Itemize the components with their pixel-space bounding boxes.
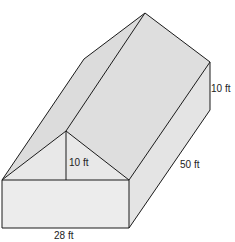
gable-height-label: 10 ft: [69, 158, 88, 168]
building-drawing: [0, 0, 235, 242]
front-wall-face: [2, 180, 129, 228]
building-diagram: 10 ft 10 ft 50 ft 28 ft: [0, 0, 235, 242]
wall-height-label: 10 ft: [211, 84, 230, 94]
width-label: 28 ft: [54, 231, 73, 241]
length-label: 50 ft: [180, 160, 199, 170]
